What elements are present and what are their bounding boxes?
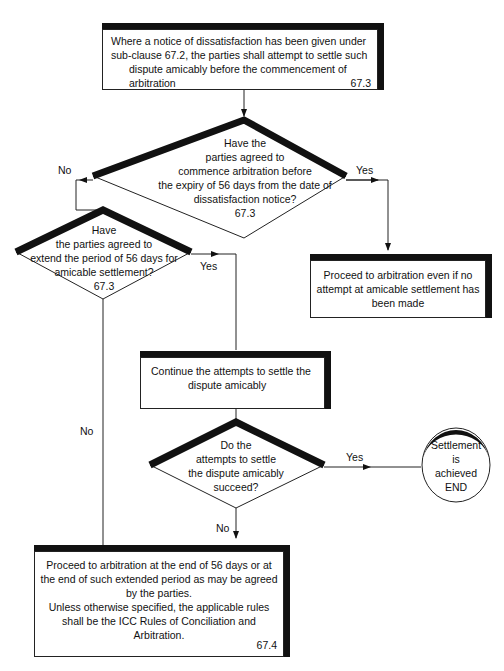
text-line: by the parties. xyxy=(35,586,283,600)
text-line: succeed? xyxy=(166,480,306,494)
clause-ref: 67.3 xyxy=(120,206,370,220)
decision-commence-text: Have the parties agreed to commence arbi… xyxy=(120,136,370,220)
edge-label-yes: Yes xyxy=(356,164,373,176)
box-shadow-top xyxy=(140,351,331,357)
text-line: the end of such extended period as may b… xyxy=(35,572,283,586)
clause-ref: 67.3 xyxy=(351,76,371,90)
text-line: dispute amicably xyxy=(188,378,266,392)
text-line: extend the period of 56 days for xyxy=(18,251,190,265)
text-line: been made xyxy=(311,296,485,310)
text-line: the dispute amicably xyxy=(166,466,306,480)
end-text: Settlement is achieved END xyxy=(422,438,490,494)
edge-label-yes: Yes xyxy=(200,260,217,272)
edge-label-no: No xyxy=(216,522,229,534)
text-line: attempt at amicable settlement has xyxy=(311,282,485,296)
text-line: the expiry of 56 days from the date of xyxy=(120,178,370,192)
box-shadow-right xyxy=(378,23,384,90)
edge-label-no: No xyxy=(80,425,93,437)
proceed-end-box: Proceed to arbitration at the end of 56 … xyxy=(34,551,284,657)
text-line: amicable settlement? xyxy=(18,265,190,279)
text-line: attempts to settle xyxy=(166,452,306,466)
text-line: achieved xyxy=(422,466,490,480)
text-line: is xyxy=(422,452,490,466)
text-line: Proceed to arbitration even if no xyxy=(311,268,485,282)
clause-ref: 67.4 xyxy=(257,638,277,652)
decision-succeed-text: Do the attempts to settle the dispute am… xyxy=(166,438,306,494)
text-line: Have xyxy=(18,223,190,237)
start-line-1: Where a notice of dissatisfaction has be… xyxy=(111,34,366,48)
text-line: the parties agreed to xyxy=(18,237,190,251)
box-shadow-top xyxy=(34,545,290,551)
start-process-box: Where a notice of dissatisfaction has be… xyxy=(102,29,378,90)
text-line: END xyxy=(422,480,490,494)
decision-extend-text: Have the parties agreed to extend the pe… xyxy=(18,223,190,293)
text-line: Proceed to arbitration at the end of 56 … xyxy=(35,558,283,572)
start-line-2: sub-clause 67.2, the parties shall attem… xyxy=(111,48,367,62)
box-shadow-top xyxy=(102,23,384,29)
start-line-4: arbitration xyxy=(129,76,176,90)
box-shadow-right xyxy=(325,351,331,409)
clause-ref: 67.3 xyxy=(18,279,190,293)
text-line: commence arbitration before xyxy=(120,164,370,178)
text-line: dissatisfaction notice? xyxy=(120,192,370,206)
box-shadow-right xyxy=(486,254,492,318)
text-line: parties agreed to xyxy=(120,150,370,164)
box-shadow-top xyxy=(310,254,492,260)
text-line: Settlement xyxy=(422,438,490,452)
text-line: Continue the attempts to settle the xyxy=(151,364,311,378)
edge-label-yes: Yes xyxy=(346,451,363,463)
text-line: Unless otherwise specified, the applicab… xyxy=(35,600,283,614)
start-line-3: dispute amicably before the commencement… xyxy=(129,62,347,76)
text-line: Do the xyxy=(166,438,306,452)
text-line: shall be the ICC Rules of Conciliation a… xyxy=(35,614,283,628)
edge-label-no: No xyxy=(58,164,71,176)
proceed-immediate-box: Proceed to arbitration even if no attemp… xyxy=(310,260,486,318)
continue-attempts-box: Continue the attempts to settle the disp… xyxy=(140,357,325,409)
text-line: Arbitration. xyxy=(35,628,283,642)
box-shadow-right xyxy=(284,545,290,657)
text-line: Have the xyxy=(120,136,370,150)
